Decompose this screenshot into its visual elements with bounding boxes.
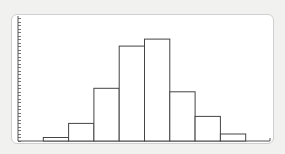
histogram-chart [0,0,285,154]
histogram-bar [220,134,245,141]
bars [43,39,245,141]
histogram-bar [145,39,170,141]
histogram-bar [170,92,195,141]
histogram-bar [119,46,144,141]
histogram-bar [195,116,220,141]
histogram-bar [94,88,119,141]
histogram-bar [43,138,68,142]
histogram-bar [69,123,94,141]
